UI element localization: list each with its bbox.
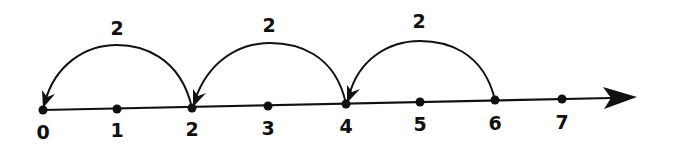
tick-point xyxy=(264,102,273,111)
tick-point xyxy=(342,100,351,109)
tick-label: 5 xyxy=(413,113,426,135)
jump-label: 2 xyxy=(110,17,123,39)
jump-label: 2 xyxy=(262,14,275,36)
jump-arc-4-to-2 xyxy=(193,43,346,107)
tick-label: 1 xyxy=(110,119,123,141)
tick-point xyxy=(491,96,500,105)
tick-label: 4 xyxy=(339,115,352,137)
tick-point xyxy=(558,95,567,104)
tick-point xyxy=(188,104,197,113)
jump-label: 2 xyxy=(412,10,425,32)
tick-label: 6 xyxy=(488,112,501,134)
jump-arc-6-to-4 xyxy=(347,41,495,103)
tick-point xyxy=(113,105,122,114)
tick-point xyxy=(416,98,425,107)
tick-label: 2 xyxy=(185,118,198,140)
number-line-axis xyxy=(43,98,612,110)
tick-point xyxy=(39,106,48,115)
tick-label: 0 xyxy=(36,121,49,143)
tick-label: 7 xyxy=(555,111,568,133)
arrowhead-icon xyxy=(347,85,360,103)
tick-label: 3 xyxy=(261,117,274,139)
arrowhead-icon xyxy=(193,89,206,107)
jump-arc-2-to-0 xyxy=(42,45,192,108)
number-line-diagram: 2 2 2 0 1 2 3 4 5 6 7 xyxy=(0,0,677,148)
